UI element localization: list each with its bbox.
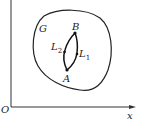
point-a-label: A xyxy=(62,73,70,84)
curve-l2-label: L2 xyxy=(50,41,62,55)
origin-label: O xyxy=(1,104,9,115)
point-b-label: B xyxy=(71,21,79,32)
diagram-canvas: G B A L2 L1 O x xyxy=(0,0,142,125)
point-a xyxy=(65,68,68,71)
curve-l1 xyxy=(67,33,77,70)
curve-l1-label: L1 xyxy=(78,48,90,62)
region-label: G xyxy=(39,23,47,34)
x-axis-label: x xyxy=(127,110,133,121)
x-axis-arrow-icon xyxy=(129,105,136,109)
l1-marker xyxy=(76,53,79,56)
l2-marker xyxy=(63,51,66,54)
